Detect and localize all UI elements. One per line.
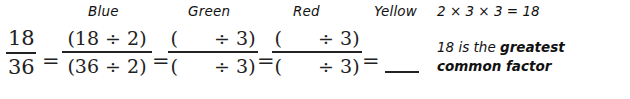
- equals-sign-4: =: [362, 51, 380, 72]
- fraction-bar: [62, 51, 152, 53]
- prime-factorization-note: 2 × 3 × 3 = 18: [437, 3, 540, 19]
- red-fraction-numerator[interactable]: ( ÷ 3): [272, 26, 362, 50]
- green-fraction-denominator[interactable]: ( ÷ 3): [168, 54, 258, 78]
- yellow-answer-blank[interactable]: [385, 71, 419, 73]
- color-label-green: Green: [188, 3, 230, 19]
- equals-sign-2: =: [152, 51, 170, 72]
- explanation-lead: 18 is the: [437, 39, 500, 55]
- blue-fraction-numerator: (18 ÷ 2): [62, 26, 152, 50]
- color-label-blue: Blue: [88, 3, 119, 19]
- fraction-bar: [168, 51, 258, 53]
- original-fraction-denominator: 36: [6, 55, 36, 80]
- green-fraction-numerator[interactable]: ( ÷ 3): [168, 26, 258, 50]
- color-label-yellow: Yellow: [374, 3, 417, 19]
- red-fraction-denominator[interactable]: ( ÷ 3): [272, 54, 362, 78]
- green-fraction: ( ÷ 3) ( ÷ 3): [168, 26, 258, 78]
- equals-sign-1: =: [42, 51, 60, 72]
- fraction-bar: [272, 51, 362, 53]
- original-fraction-numerator: 18: [6, 26, 36, 51]
- original-fraction: 18 36: [6, 26, 36, 80]
- color-label-red: Red: [293, 3, 320, 19]
- red-fraction: ( ÷ 3) ( ÷ 3): [272, 26, 362, 78]
- explanation-text: 18 is the greatest common factor: [437, 38, 630, 76]
- blue-fraction-denominator: (36 ÷ 2): [62, 54, 152, 78]
- fraction-simplification-worksheet: Blue Green Red Yellow 2 × 3 × 3 = 18 18 …: [0, 0, 630, 99]
- fraction-bar: [6, 52, 36, 54]
- blue-fraction: (18 ÷ 2) (36 ÷ 2): [62, 26, 152, 78]
